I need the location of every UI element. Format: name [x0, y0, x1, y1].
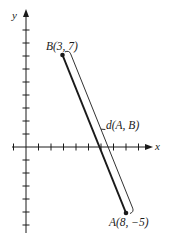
point-B-label: B(3, 7): [46, 40, 78, 53]
point-A: [124, 211, 129, 216]
distance-diagram: x y B(3, 7) A(8, −5) d(A, B): [0, 0, 169, 237]
y-axis: y: [11, 9, 30, 233]
point-B: [60, 53, 65, 58]
x-axis-label: x: [154, 140, 160, 152]
point-A-label: A(8, −5): [108, 216, 149, 229]
x-axis-arrow-icon: [145, 144, 153, 150]
segment-AB: [63, 55, 127, 213]
distance-label: d(A, B): [106, 119, 139, 132]
y-axis-arrow-icon: [23, 9, 29, 17]
x-axis: x: [12, 140, 160, 152]
y-axis-label: y: [11, 9, 17, 21]
distance-bracket: [65, 51, 133, 213]
